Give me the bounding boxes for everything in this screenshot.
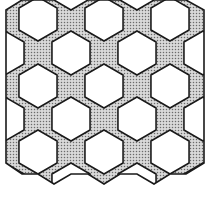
tiling-canvas — [0, 0, 208, 197]
hexagon-star-tiling — [0, 0, 208, 197]
clipped-region — [0, 0, 208, 197]
hexagon-layer — [0, 0, 208, 197]
